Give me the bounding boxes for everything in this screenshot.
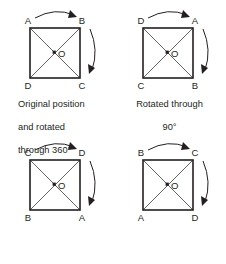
square-diagram-3: O B C D A [113,132,226,264]
right-arc-arrow-head [88,196,95,206]
vertex-label-bottom-left: A [138,212,145,223]
top-arc-arrow-head [181,142,190,150]
vertex-label-bottom-left: B [25,212,31,223]
vertex-label-bottom-right: A [79,212,86,223]
vertex-label-top-right: C [192,147,199,158]
right-arc-arrow-path [90,161,95,202]
right-arc-arrow-head [201,196,208,206]
panel-rotated-90: O D A B C Rotated through 90° [113,0,226,132]
top-arc-arrow-path [148,12,187,18]
center-point-label: O [171,48,178,59]
center-point-label: O [58,180,65,191]
panel-original-360: O A B C D Original position and rotated … [0,0,113,132]
top-arc-arrow-head [68,142,77,150]
vertex-label-top-right: B [79,15,85,26]
vertex-label-top-right: A [192,15,199,26]
center-point-dot [53,51,56,54]
right-arc-arrow-head [201,64,208,74]
top-arc-arrow-path [35,144,74,150]
top-arc-arrow-path [148,144,187,150]
rotation-figure: O A B C D Original position and rotated … [0,0,226,264]
top-arc-arrow-head [68,10,77,18]
vertex-label-top-left: B [138,147,144,158]
center-point-dot [53,183,56,186]
vertex-label-top-right: D [79,147,86,158]
caption-line: Rotated through [113,99,226,110]
caption-line: Original position [18,99,113,110]
center-point-label: O [171,180,178,191]
vertex-label-top-left: A [25,15,32,26]
vertex-label-top-left: D [138,15,145,26]
center-point-dot [166,51,169,54]
vertex-label-bottom-right: D [192,212,199,223]
center-point-label: O [58,48,65,59]
panel-rotated-270: O B C D A Rotated through 270° [113,132,226,264]
right-arc-arrow-path [90,29,95,70]
square-diagram-2: O C D A B [0,132,113,264]
top-arc-arrow-head [181,10,190,18]
center-point-dot [166,183,169,186]
right-arc-arrow-head [88,64,95,74]
vertex-label-top-left: C [25,147,32,158]
panel-rotated-180: O C D A B Rotated through 180° [0,132,113,264]
right-arc-arrow-path [203,29,208,70]
top-arc-arrow-path [35,12,74,18]
right-arc-arrow-path [203,161,208,202]
